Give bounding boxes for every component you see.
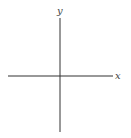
y-axis-label: y (56, 5, 63, 16)
x-axis-label: x (115, 70, 121, 81)
sine-family-chart: x y (0, 0, 131, 138)
